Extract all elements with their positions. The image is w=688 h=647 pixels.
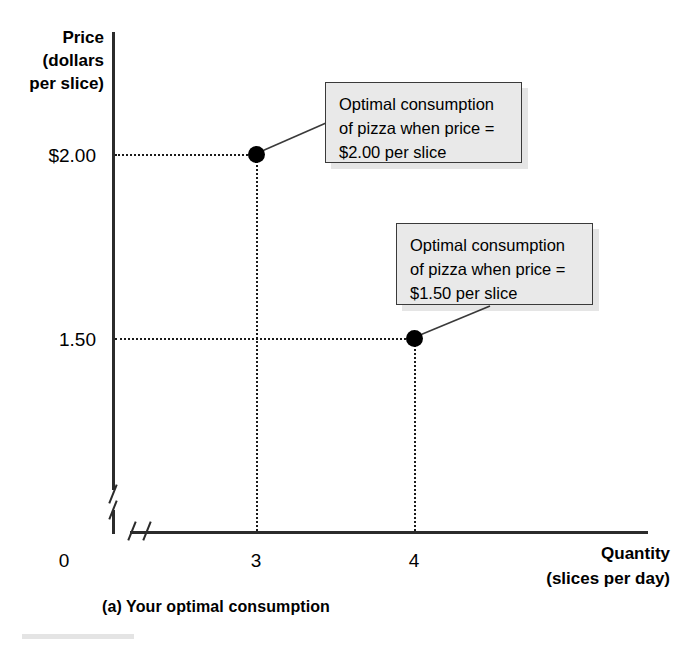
guide-line-horizontal-1-50: [115, 338, 414, 340]
x-tick-label-3: 3: [236, 551, 276, 570]
y-axis-title: Price (dollars per slice): [0, 26, 104, 95]
guide-line-vertical-q3: [256, 154, 258, 531]
x-tick-label-4: 4: [394, 551, 434, 570]
y-tick-label-1-50: 1.50: [0, 330, 96, 349]
scan-artifact-strip: [22, 634, 134, 639]
guide-line-vertical-q4: [414, 338, 416, 531]
x-axis-title: Quantity (slices per day): [418, 541, 670, 591]
callout-box-price-2-00: Optimal consumption of pizza when price …: [325, 82, 522, 163]
data-point-q4-p1-50: [406, 330, 423, 347]
data-point-q3-p2-00: [248, 146, 265, 163]
x-tick-label-0: 0: [44, 551, 84, 570]
x-axis-line: [130, 531, 648, 534]
figure-panel-a: Price (dollars per slice) Quantity (slic…: [0, 0, 688, 647]
callout-box-price-1-50: Optimal consumption of pizza when price …: [396, 223, 593, 305]
y-axis-line: [112, 32, 115, 490]
guide-line-horizontal-2-00: [115, 154, 256, 156]
figure-caption: (a) Your optimal consumption: [102, 598, 330, 616]
y-tick-label-2-00: $2.00: [0, 146, 96, 165]
